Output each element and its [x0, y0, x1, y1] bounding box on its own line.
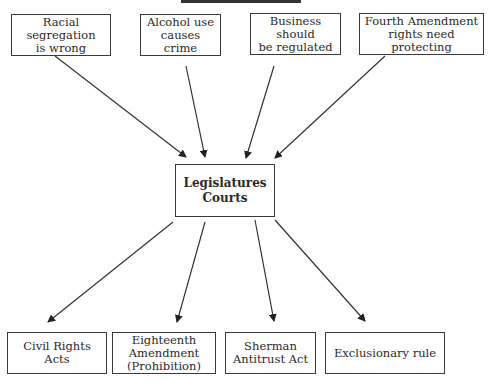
- arrow-s1-to-center: [55, 56, 186, 157]
- source-box-1: Racial segregation is wrong: [11, 14, 111, 56]
- arrow-s3-to-center: [246, 66, 274, 158]
- legislatures-courts-box-label: Legislatures Courts: [183, 176, 266, 206]
- source-box-2: Alcohol use causes crime: [140, 14, 221, 56]
- source-box-3-label: Business should be regulated: [254, 15, 337, 54]
- outcome-box-3: Sherman Antitrust Act: [225, 332, 316, 374]
- source-box-4-label: Fourth Amendment rights need protecting: [363, 15, 480, 54]
- source-box-3: Business should be regulated: [250, 13, 341, 55]
- outcome-box-3-label: Sherman Antitrust Act: [233, 340, 308, 366]
- arrow-center-to-o2: [177, 222, 205, 322]
- outcome-box-4-label: Exclusionary rule: [334, 347, 436, 360]
- outcome-box-4: Exclusionary rule: [325, 332, 445, 374]
- outcome-box-2: Eighteenth Amendment (Prohibition): [112, 332, 216, 374]
- source-box-2-label: Alcohol use causes crime: [144, 16, 217, 55]
- source-box-1-label: Racial segregation is wrong: [15, 16, 107, 55]
- arrow-center-to-o1: [48, 222, 173, 322]
- arrow-s4-to-center: [275, 56, 385, 158]
- arrow-s2-to-center: [186, 66, 205, 157]
- outcome-box-1-label: Civil Rights Acts: [11, 340, 103, 366]
- legislatures-courts-box: Legislatures Courts: [175, 164, 275, 217]
- arrow-center-to-o4: [275, 220, 365, 321]
- outcome-box-2-label: Eighteenth Amendment (Prohibition): [127, 334, 201, 373]
- outcome-box-1: Civil Rights Acts: [7, 332, 107, 374]
- source-box-4: Fourth Amendment rights need protecting: [359, 13, 484, 55]
- arrow-center-to-o3: [255, 220, 274, 321]
